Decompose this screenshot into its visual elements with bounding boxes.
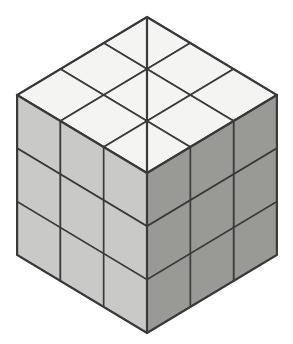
isometric-cube-figure: Isometric Cube [0,0,293,344]
